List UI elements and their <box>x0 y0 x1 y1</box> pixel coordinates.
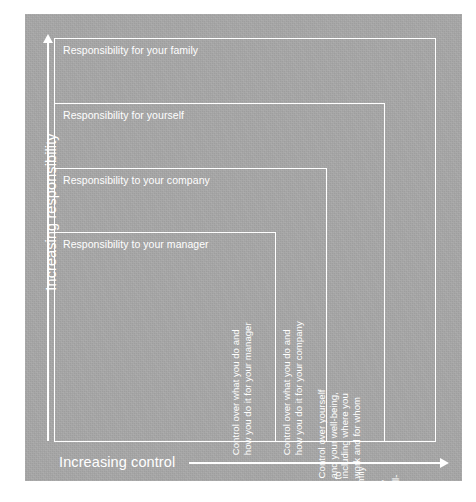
caption-company: Control over what you do and how you do … <box>281 321 304 455</box>
up-arrow-icon <box>43 34 53 43</box>
box-yourself-label: Responsibility for yourself <box>63 109 184 121</box>
x-axis-label: Increasing control <box>59 454 175 470</box>
diagram-panel: Increasing responsibility Increasing con… <box>25 14 462 481</box>
caption-manager: Control over what you do and how you do … <box>230 322 253 455</box>
caption-family: Control to support your family life, its… <box>332 464 413 481</box>
diagram-canvas: Increasing responsibility Increasing con… <box>0 0 476 502</box>
box-manager-label: Responsibility to your manager <box>63 238 209 250</box>
right-arrow-icon <box>440 458 449 468</box>
box-family-label: Responsibility for your family <box>63 44 198 56</box>
box-company-label: Responsibility to your company <box>63 174 210 186</box>
